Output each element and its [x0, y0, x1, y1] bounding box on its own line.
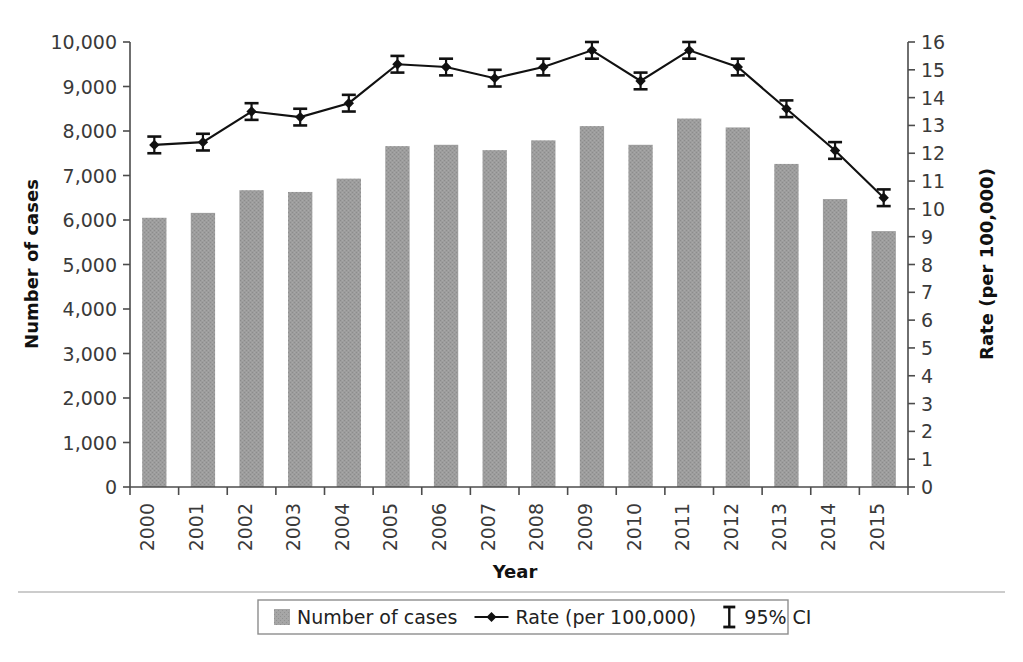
bar-2001: [191, 213, 215, 487]
right-axis-tick-label: 7: [921, 281, 933, 303]
left-axis-tick-label: 3,000: [63, 343, 117, 365]
left-axis-tick-label: 7,000: [63, 165, 117, 187]
chart-svg: 01,0002,0003,0004,0005,0006,0007,0008,00…: [0, 0, 1023, 662]
bar-2007: [483, 150, 507, 487]
x-axis-tick-label-2007: 2007: [477, 503, 499, 551]
x-axis-tick-label-2000: 2000: [136, 503, 158, 551]
right-axis-tick-label: 3: [921, 393, 933, 415]
right-axis-tick-label: 11: [921, 170, 945, 192]
bar-2012: [726, 127, 750, 487]
bar-2011: [677, 119, 701, 487]
bar-2004: [337, 179, 361, 487]
right-axis-tick-label: 2: [921, 420, 933, 442]
legend-label: Number of cases: [297, 606, 457, 628]
right-axis-title: Rate (per 100,000): [976, 168, 997, 360]
left-axis-tick-label: 2,000: [63, 387, 117, 409]
right-axis-tick-label: 16: [921, 31, 945, 53]
x-axis-tick-label-2005: 2005: [379, 503, 401, 551]
legend-item-2[interactable]: 95% CI: [723, 606, 811, 628]
left-axis-tick-label: 0: [105, 476, 117, 498]
legend-swatch-icon: [274, 609, 290, 625]
x-axis-tick-label-2006: 2006: [428, 503, 450, 551]
right-axis-tick-label: 5: [921, 337, 933, 359]
left-axis: 01,0002,0003,0004,0005,0006,0007,0008,00…: [51, 31, 130, 498]
x-axis-tick-label-2003: 2003: [282, 503, 304, 551]
right-axis-tick-label: 0: [921, 476, 933, 498]
x-axis-tick-label-2010: 2010: [623, 503, 645, 551]
bar-2014: [823, 199, 847, 487]
x-axis-tick-label-2012: 2012: [720, 503, 742, 551]
x-axis-tick-label-2002: 2002: [234, 503, 256, 551]
right-axis-tick-label: 15: [921, 59, 945, 81]
right-axis: 012345678910111213141516: [908, 31, 945, 498]
bar-2010: [628, 145, 652, 487]
bottom-axis: 2000200120022003200420052006200720082009…: [130, 487, 908, 551]
right-axis-tick-label: 4: [921, 365, 933, 387]
left-axis-tick-label: 8,000: [63, 120, 117, 142]
left-axis-tick-label: 10,000: [51, 31, 117, 53]
bar-2009: [580, 126, 604, 487]
legend-label: Rate (per 100,000): [516, 606, 697, 628]
bars-series: [142, 119, 896, 487]
bottom-axis-title: Year: [492, 561, 538, 582]
x-axis-tick-label-2015: 2015: [866, 503, 888, 551]
legend-error-bar-icon: [723, 607, 735, 627]
right-axis-tick-label: 10: [921, 198, 945, 220]
legend-item-0[interactable]: Number of cases: [274, 606, 457, 628]
chart-legend: Number of casesRate (per 100,000)95% CI: [258, 600, 811, 634]
legend-diamond-marker-icon: [487, 612, 497, 622]
right-axis-tick-label: 9: [921, 226, 933, 248]
left-axis-tick-label: 9,000: [63, 76, 117, 98]
bar-2005: [385, 146, 409, 487]
bar-2015: [872, 231, 896, 487]
bar-2000: [142, 218, 166, 487]
left-axis-tick-label: 6,000: [63, 209, 117, 231]
right-axis-tick-label: 13: [921, 114, 945, 136]
legend-label: 95% CI: [744, 606, 811, 628]
x-axis-tick-label-2011: 2011: [671, 503, 693, 551]
bar-2008: [531, 140, 555, 487]
chart-figure: 01,0002,0003,0004,0005,0006,0007,0008,00…: [0, 0, 1023, 662]
x-axis-tick-label-2014: 2014: [817, 503, 839, 551]
right-axis-tick-label: 8: [921, 254, 933, 276]
bar-2002: [239, 190, 263, 487]
left-axis-tick-label: 4,000: [63, 298, 117, 320]
bar-2013: [774, 164, 798, 487]
right-axis-tick-label: 6: [921, 309, 933, 331]
left-axis-title: Number of cases: [21, 179, 42, 349]
x-axis-tick-label-2013: 2013: [768, 503, 790, 551]
left-axis-tick-label: 5,000: [63, 254, 117, 276]
x-axis-tick-label-2004: 2004: [331, 503, 353, 551]
x-axis-tick-label-2009: 2009: [574, 503, 596, 551]
legend-item-1[interactable]: Rate (per 100,000): [475, 606, 697, 628]
right-axis-tick-label: 1: [921, 448, 933, 470]
right-axis-tick-label: 12: [921, 142, 945, 164]
left-axis-tick-label: 1,000: [63, 432, 117, 454]
bar-2003: [288, 192, 312, 487]
right-axis-tick-label: 14: [921, 87, 945, 109]
bar-2006: [434, 145, 458, 487]
x-axis-tick-label-2008: 2008: [525, 503, 547, 551]
x-axis-tick-label-2001: 2001: [185, 503, 207, 551]
